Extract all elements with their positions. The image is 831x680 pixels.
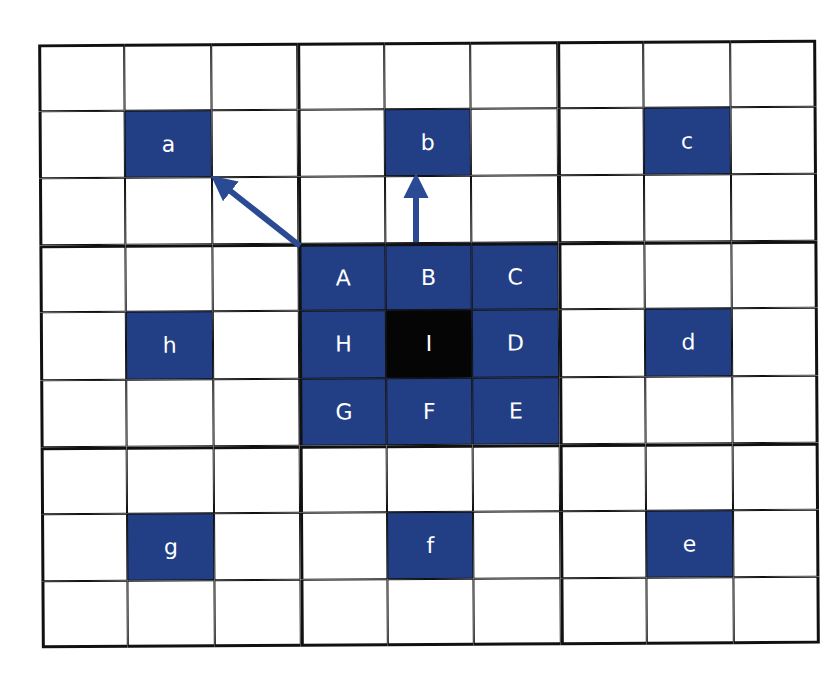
empty-cell [39, 111, 126, 179]
cell-A: A [299, 244, 386, 312]
cell-h: h [126, 312, 213, 380]
empty-cell [473, 511, 560, 579]
empty-cell [646, 443, 733, 511]
empty-cell [213, 311, 300, 379]
cell-label: g [164, 534, 178, 559]
cell-C: C [472, 243, 559, 311]
empty-cell [300, 512, 387, 580]
cell-G: G [300, 378, 387, 446]
empty-cell [40, 379, 127, 447]
empty-cell [127, 379, 214, 447]
cell-I: I [386, 310, 473, 378]
cell-label: D [507, 331, 524, 356]
empty-cell [559, 376, 646, 444]
empty-cell [560, 510, 647, 578]
cell-B: B [385, 243, 472, 311]
empty-cell [213, 445, 300, 513]
cell-D: D [472, 310, 559, 378]
diagram-canvas: abcABChHIDdGFEgfe [0, 0, 831, 680]
empty-cell [126, 245, 213, 313]
empty-cell [40, 312, 127, 380]
empty-cell [212, 244, 299, 312]
empty-cell [645, 376, 732, 444]
empty-cell [387, 579, 474, 647]
cell-H: H [299, 311, 386, 379]
cell-label: b [421, 130, 435, 155]
empty-cell [125, 178, 212, 246]
empty-cell [386, 444, 473, 512]
empty-cell [298, 109, 385, 177]
empty-cell [385, 176, 472, 244]
empty-cell [214, 580, 301, 648]
empty-cell [732, 375, 819, 443]
empty-cell [213, 378, 300, 446]
empty-cell [297, 42, 384, 110]
cell-E: E [472, 377, 559, 445]
cell-label: f [426, 533, 434, 558]
empty-cell [731, 308, 818, 376]
empty-cell [560, 578, 647, 646]
cell-label: F [423, 399, 436, 424]
empty-cell [211, 110, 298, 178]
empty-cell [211, 43, 298, 111]
empty-cell [384, 42, 471, 110]
empty-cell [557, 41, 644, 109]
empty-cell [127, 446, 214, 514]
empty-cell [39, 178, 126, 246]
cell-label: a [162, 132, 176, 157]
empty-cell [41, 514, 128, 582]
cell-F: F [386, 377, 473, 445]
cell-label: G [335, 399, 352, 424]
cell-label: B [421, 265, 436, 290]
empty-cell [300, 445, 387, 513]
empty-cell [474, 578, 561, 646]
empty-cell [38, 44, 125, 112]
cell-label: I [426, 331, 433, 356]
empty-cell [214, 513, 301, 581]
cell-f: f [387, 511, 474, 579]
empty-cell [473, 444, 560, 512]
empty-cell [730, 107, 817, 175]
empty-cell [470, 41, 557, 109]
empty-cell [39, 245, 126, 313]
cell-label: E [509, 398, 523, 423]
nine-by-nine-grid: abcABChHIDdGFEgfe [38, 40, 820, 649]
empty-cell [733, 509, 820, 577]
empty-cell [41, 581, 128, 649]
empty-cell [732, 442, 819, 510]
cell-label: H [335, 332, 352, 357]
empty-cell [731, 241, 818, 309]
cell-g: g [127, 513, 214, 581]
cell-b: b [384, 109, 471, 177]
empty-cell [128, 580, 215, 648]
empty-cell [41, 447, 128, 515]
cell-label: d [681, 330, 695, 355]
empty-cell [471, 175, 558, 243]
empty-cell [644, 241, 731, 309]
empty-cell [125, 43, 212, 111]
empty-cell [730, 40, 817, 108]
cell-a: a [125, 110, 212, 178]
cell-label: e [683, 531, 697, 556]
cell-label: C [507, 265, 523, 290]
cell-e: e [646, 510, 733, 578]
empty-cell [559, 443, 646, 511]
empty-cell [643, 40, 730, 108]
empty-cell [558, 309, 645, 377]
cell-label: A [336, 266, 351, 291]
empty-cell [558, 175, 645, 243]
cell-d: d [645, 309, 732, 377]
empty-cell [301, 579, 388, 647]
empty-cell [733, 576, 820, 644]
empty-cell [731, 174, 818, 242]
empty-cell [558, 242, 645, 310]
empty-cell [557, 108, 644, 176]
empty-cell [212, 177, 299, 245]
cell-label: c [681, 129, 693, 154]
empty-cell [298, 176, 385, 244]
cell-label: h [163, 333, 177, 358]
empty-cell [471, 108, 558, 176]
empty-cell [644, 174, 731, 242]
cell-c: c [644, 107, 731, 175]
empty-cell [647, 577, 734, 645]
